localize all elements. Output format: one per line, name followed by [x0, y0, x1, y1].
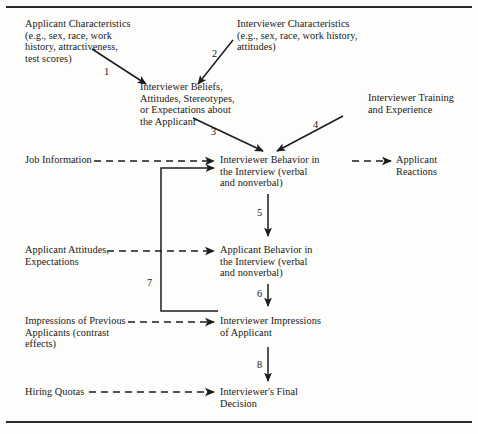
arrow-path-7	[161, 168, 218, 311]
arrow-path-2	[198, 40, 233, 84]
node-applicant-attitudes: Applicant Attitudes, Expectations	[25, 244, 109, 267]
node-interviewer-training: Interviewer Training and Experience	[368, 92, 454, 115]
node-interviewer-impressions: Interviewer Impressions of Applicant	[220, 315, 321, 338]
path-number-4: 4	[313, 119, 318, 130]
figure-container: Applicant Characteristics (e.g., sex, ra…	[0, 0, 478, 434]
node-interviewer-beliefs: Interviewer Beliefs, Attitudes, Stereoty…	[140, 81, 235, 127]
node-final-decision: Interviewer's Final Decision	[220, 386, 298, 409]
path-number-8: 8	[257, 359, 262, 370]
path-number-5: 5	[257, 207, 262, 218]
path-number-6: 6	[257, 288, 262, 299]
path-number-3: 3	[211, 126, 216, 137]
node-impressions-previous: Impressions of Previous Applicants (cont…	[25, 315, 126, 350]
path-number-1: 1	[104, 66, 109, 77]
node-hiring-quotas: Hiring Quotas	[25, 386, 84, 398]
node-applicant-reactions: Applicant Reactions	[396, 154, 437, 177]
arrow-path-4	[277, 116, 343, 151]
node-interviewer-behavior: Interviewer Behavior in the Interview (v…	[220, 154, 320, 189]
diagram-arrows	[0, 0, 478, 434]
node-job-information: Job Information	[25, 154, 92, 166]
path-number-7: 7	[147, 277, 152, 288]
node-interviewer-characteristics: Interviewer Characteristics (e.g., sex, …	[237, 18, 357, 53]
path-number-2: 2	[212, 48, 217, 59]
node-applicant-characteristics: Applicant Characteristics (e.g., sex, ra…	[25, 18, 131, 64]
node-applicant-behavior: Applicant Behavior in the Interview (ver…	[220, 244, 313, 279]
